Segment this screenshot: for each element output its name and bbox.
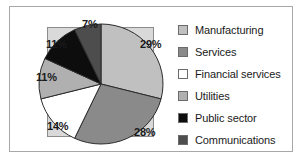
legend-swatch-icon [178,91,188,101]
chart-legend: Manufacturing Services Financial service… [178,19,290,151]
legend-item-label: Public sector [195,112,257,124]
legend-item-label: Communications [195,134,276,146]
legend-item-label: Utilities [195,90,230,102]
legend-item-financial-services: Financial services [178,63,290,85]
slice-percent-label: 11% [46,38,67,50]
legend-item-communications: Communications [178,129,290,151]
legend-swatch-icon [178,135,188,145]
legend-swatch-icon [178,47,188,57]
slice-percent-label: 11% [36,71,57,83]
legend-item-label: Manufacturing [195,24,263,36]
chart-figure: 29% 28% 14% 11% 11% 7% Manufacturing Ser… [9,6,293,152]
legend-item-public-sector: Public sector [178,107,290,129]
slice-percent-label: 14% [47,120,68,132]
legend-item-manufacturing: Manufacturing [178,19,290,41]
legend-item-label: Financial services [195,68,281,80]
slice-percent-label: 7% [82,18,98,30]
slice-percent-label: 28% [134,126,155,138]
legend-swatch-icon [178,25,188,35]
legend-swatch-icon [178,69,188,79]
legend-swatch-icon [178,113,188,123]
slice-percent-label: 29% [140,38,161,50]
legend-item-label: Services [195,46,236,58]
legend-item-services: Services [178,41,290,63]
legend-item-utilities: Utilities [178,85,290,107]
